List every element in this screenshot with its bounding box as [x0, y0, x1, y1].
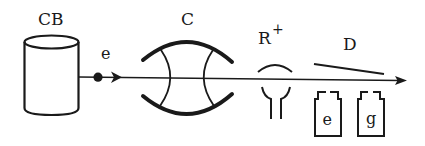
ring-r: [258, 65, 292, 119]
r-superscript: +: [272, 21, 284, 37]
d-label: D: [343, 34, 357, 54]
c-label: C: [181, 9, 194, 29]
detector-e-label: e: [323, 110, 332, 129]
beam-arrow: [79, 76, 408, 85]
e-label: e: [101, 44, 110, 63]
atom-beam-diagram: CB e C R + D e g: [0, 0, 425, 146]
cb-label: CB: [38, 9, 64, 29]
r-label-main: R: [258, 28, 272, 48]
detector-plate: [314, 64, 384, 74]
cb-cylinder: [25, 36, 79, 116]
detector-g-label: g: [366, 109, 376, 128]
r-label: R: [258, 28, 272, 48]
